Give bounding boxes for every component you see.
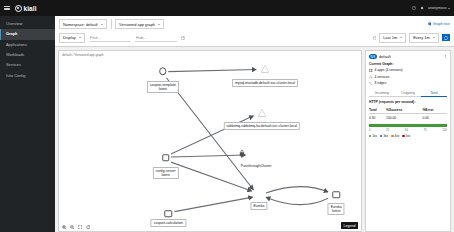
column-header-success: %Success: [386, 106, 422, 113]
traffic-bar-2xx: [369, 124, 447, 127]
toolbar-row-filters: Display Last 1m: [59, 33, 450, 43]
info-circle-icon: [428, 22, 432, 26]
display-menu-label: Display: [63, 35, 76, 40]
node-label-coupon-calculation[interactable]: coupon-calculation: [151, 219, 186, 227]
user-label: anonymous: [428, 6, 447, 10]
graph-canvas[interactable]: default / Versioned app graph: [58, 50, 362, 232]
chevron-down-icon: [400, 37, 402, 38]
traffic-bar-legend: 2xx 3xx 4xx: [369, 134, 447, 138]
tab-total[interactable]: Total: [421, 89, 447, 96]
side-panel-tabs: Incoming Outgoing Total: [369, 89, 447, 97]
http-traffic-table: Total %Success %Error 0.30 100.00 0.00: [369, 106, 447, 121]
graph-side-panel: NS default Current Graph: 4 apps (4 vers…: [365, 50, 451, 232]
node-shape-config-server[interactable]: [162, 154, 170, 162]
sidebar-item-overview[interactable]: Overview: [0, 19, 55, 29]
traffic-bar-axis: 0 25 50 75 100: [369, 128, 447, 132]
mtls-lock-icon: [240, 150, 244, 157]
duration-select[interactable]: Last 1m: [379, 33, 406, 43]
chevron-down-icon: [101, 24, 103, 25]
chevron-down-icon: [433, 37, 435, 38]
axis-tick-75: 75: [423, 128, 426, 132]
cell-error: 0.00: [422, 114, 447, 121]
legend-button[interactable]: Legend: [341, 222, 358, 229]
hamburger-icon[interactable]: [4, 6, 10, 10]
kebab-icon[interactable]: [444, 55, 447, 58]
graph-tour-link[interactable]: Graph tour: [428, 22, 450, 26]
node-shape-coupon-template[interactable]: [159, 68, 167, 76]
masthead-actions: anonymous: [412, 6, 450, 10]
hide-input[interactable]: [135, 34, 177, 42]
graph-edges: [59, 51, 361, 231]
kiali-logo[interactable]: kiali: [15, 5, 37, 12]
node-label-coupon-template[interactable]: coupon-template latest: [147, 81, 179, 93]
brand-label: kiali: [24, 5, 37, 12]
sync-icon: [444, 36, 448, 40]
refresh-button[interactable]: [442, 34, 450, 41]
graph-type-select-label: Versioned app graph: [119, 22, 155, 27]
display-menu-button[interactable]: Display: [59, 33, 85, 43]
help-icon[interactable]: [412, 6, 416, 10]
table-header-row: Total %Success %Error: [369, 106, 447, 113]
graph-type-select[interactable]: Versioned app graph: [115, 19, 164, 29]
node-label-eureka-service[interactable]: Eureka: [250, 202, 267, 210]
summary-apps: 4 apps (4 versions): [369, 68, 447, 72]
toolbar-divider: [111, 19, 112, 29]
legend-label-2xx: 2xx: [372, 134, 377, 138]
namespace-select[interactable]: Namespace: default: [59, 19, 107, 29]
toolbar-tour-area: Graph tour: [428, 22, 450, 26]
sidebar-item-istio-config[interactable]: Istio Config: [0, 70, 55, 80]
legend-item-2xx[interactable]: 2xx: [369, 134, 377, 138]
main-content: Namespace: default Versioned app graph: [55, 16, 454, 232]
chevron-down-icon: [158, 24, 160, 25]
zoom-in-icon[interactable]: [62, 225, 66, 229]
node-shape-coupon-calculation[interactable]: [165, 210, 173, 218]
graph-tour-label: Graph tour: [433, 22, 450, 26]
sidebar-item-graph[interactable]: Graph: [0, 29, 55, 39]
tab-outgoing[interactable]: Outgoing: [395, 89, 421, 96]
traffic-bar-chart: 0 25 50 75 100 2xx: [369, 124, 447, 138]
bell-icon[interactable]: [420, 6, 424, 10]
node-label-line2: latest: [155, 173, 175, 177]
node-label-eureka-workload[interactable]: Eureka latest: [328, 203, 345, 215]
toolbar-refresh-area: Last 1m Every 1m: [373, 33, 450, 43]
find-input[interactable]: [89, 34, 131, 42]
question-circle-icon[interactable]: [181, 36, 185, 40]
column-header-total: Total: [369, 106, 386, 113]
reset-view-icon[interactable]: [86, 225, 90, 229]
legend-dot-4xx: [391, 135, 393, 137]
edge-icon: [369, 82, 373, 86]
node-label-config-server[interactable]: config-server latest: [152, 167, 178, 179]
duration-select-label: Last 1m: [383, 35, 397, 40]
side-panel-title: default: [379, 54, 391, 59]
zoom-out-icon[interactable]: [70, 225, 74, 229]
legend-item-3xx[interactable]: 3xx: [380, 134, 388, 138]
node-label-mysql[interactable]: mysql-mariadb.default.svc.cluster.local: [232, 79, 298, 87]
node-shape-mysql[interactable]: [261, 66, 269, 73]
legend-item-4xx[interactable]: 4xx: [391, 134, 399, 138]
tab-incoming[interactable]: Incoming: [369, 89, 395, 96]
summary-edges: 8 edges: [369, 81, 447, 85]
side-panel-header: NS default: [369, 54, 447, 60]
service-icon: [369, 75, 373, 79]
graph-zoom-controls: [62, 225, 90, 229]
sidebar-item-workloads[interactable]: Workloads: [0, 50, 55, 60]
user-menu[interactable]: anonymous: [428, 6, 450, 10]
axis-tick-25: 25: [386, 128, 389, 132]
current-graph-heading: Current Graph:: [369, 62, 447, 66]
node-label-rabbitmq[interactable]: rabbitmq-rabbitmq-ha.default.svc.cluster…: [223, 122, 299, 130]
app-shell: Overview Graph Applications Workloads Se…: [0, 16, 454, 232]
sidebar-item-applications[interactable]: Applications: [0, 40, 55, 50]
node-label-passthrough[interactable]: PassthroughCluster: [238, 162, 275, 170]
refresh-interval-select[interactable]: Every 1m: [409, 33, 438, 43]
node-shape-rabbitmq[interactable]: [258, 109, 266, 116]
graph-breadcrumb: default / Versioned app graph: [62, 53, 104, 57]
legend-item-5xx[interactable]: 5xx: [402, 134, 410, 138]
fit-to-screen-icon[interactable]: [78, 225, 82, 229]
node-label-line2: latest: [331, 209, 342, 213]
summary-apps-label: 4 apps (4 versions): [375, 68, 403, 72]
sidebar-item-services[interactable]: Services: [0, 60, 55, 70]
node-shape-eureka-workload[interactable]: [332, 191, 340, 199]
cell-success: 100.00: [386, 114, 422, 121]
kiali-app: kiali anonymous Overview Graph Applicati…: [0, 0, 454, 232]
legend-dot-2xx: [369, 135, 371, 137]
